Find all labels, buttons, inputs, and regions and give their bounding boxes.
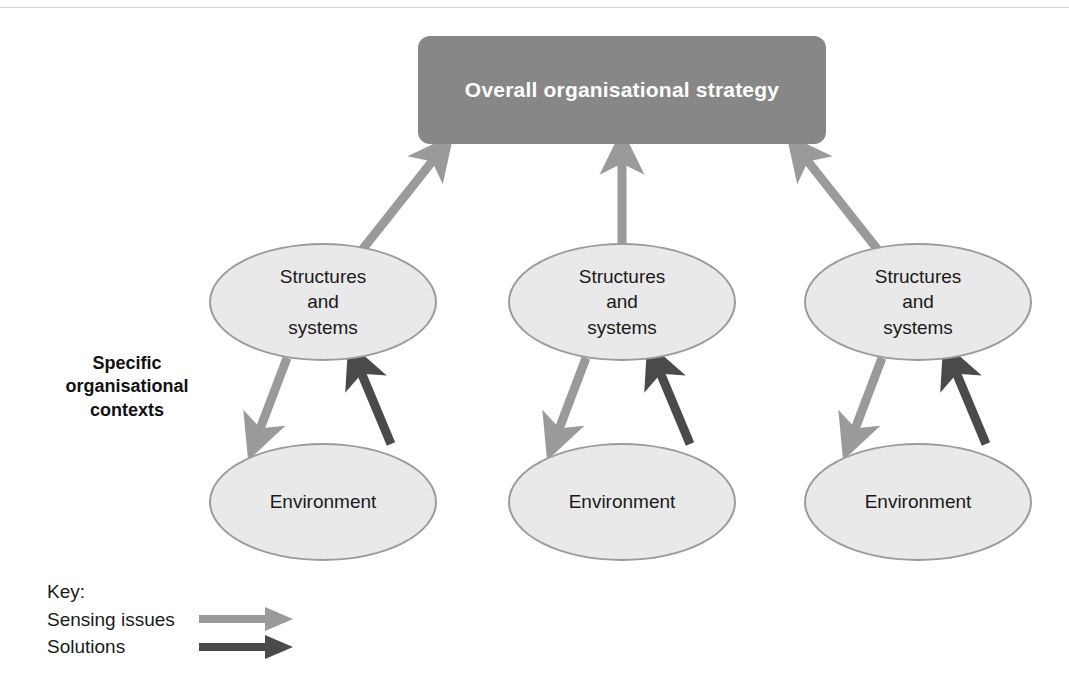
structures-line-1: Structures (875, 264, 962, 289)
structures-line-3: systems (875, 315, 962, 340)
context-2-structures-label: Structures and systems (579, 264, 666, 339)
arrow-context-2-structures-to-environment (556, 358, 586, 437)
organisational-strategy-diagram: Overall organisational strategy Specific… (0, 0, 1069, 695)
context-3-environment-node: Environment (804, 443, 1032, 561)
right-arrow-icon (199, 634, 294, 660)
structures-line-1: Structures (579, 264, 666, 289)
top-divider-rule (0, 7, 1069, 8)
arrow-context-1-to-strategy (362, 154, 438, 250)
overall-strategy-label: Overall organisational strategy (465, 78, 779, 102)
structures-line-3: systems (579, 315, 666, 340)
context-1-structures-node: Structures and systems (209, 243, 437, 361)
legend-key: Key: Sensing issues Solutions (47, 578, 294, 661)
context-3-structures-node: Structures and systems (804, 243, 1032, 361)
caption-line-3: contexts (38, 399, 216, 422)
key-label-sensing-issues: Sensing issues (47, 606, 199, 634)
context-2-environment-node: Environment (508, 443, 736, 561)
structures-line-1: Structures (280, 264, 367, 289)
key-label-solutions: Solutions (47, 633, 199, 661)
context-2-structures-node: Structures and systems (508, 243, 736, 361)
right-arrow-icon (199, 606, 294, 632)
specific-organisational-contexts-caption: Specific organisational contexts (38, 352, 216, 422)
structures-line-2: and (875, 289, 962, 314)
arrow-context-1-structures-to-environment (257, 358, 287, 437)
caption-line-2: organisational (38, 375, 216, 398)
arrow-context-3-environment-to-structures (953, 365, 986, 444)
caption-line-1: Specific (38, 352, 216, 375)
context-2-environment-label: Environment (569, 489, 676, 514)
structures-line-3: systems (280, 315, 367, 340)
structures-line-2: and (280, 289, 367, 314)
key-item-solutions: Solutions (47, 633, 294, 661)
context-1-structures-label: Structures and systems (280, 264, 367, 339)
overall-strategy-box: Overall organisational strategy (418, 36, 826, 144)
arrow-context-1-environment-to-structures (358, 365, 391, 444)
context-3-structures-label: Structures and systems (875, 264, 962, 339)
context-3-environment-label: Environment (865, 489, 972, 514)
key-title: Key: (47, 578, 294, 606)
arrow-context-3-to-strategy (802, 154, 878, 250)
context-1-environment-node: Environment (209, 443, 437, 561)
structures-line-2: and (579, 289, 666, 314)
arrow-context-3-structures-to-environment (852, 358, 882, 437)
arrow-context-2-environment-to-structures (657, 365, 690, 444)
key-item-sensing-issues: Sensing issues (47, 606, 294, 634)
context-1-environment-label: Environment (270, 489, 377, 514)
